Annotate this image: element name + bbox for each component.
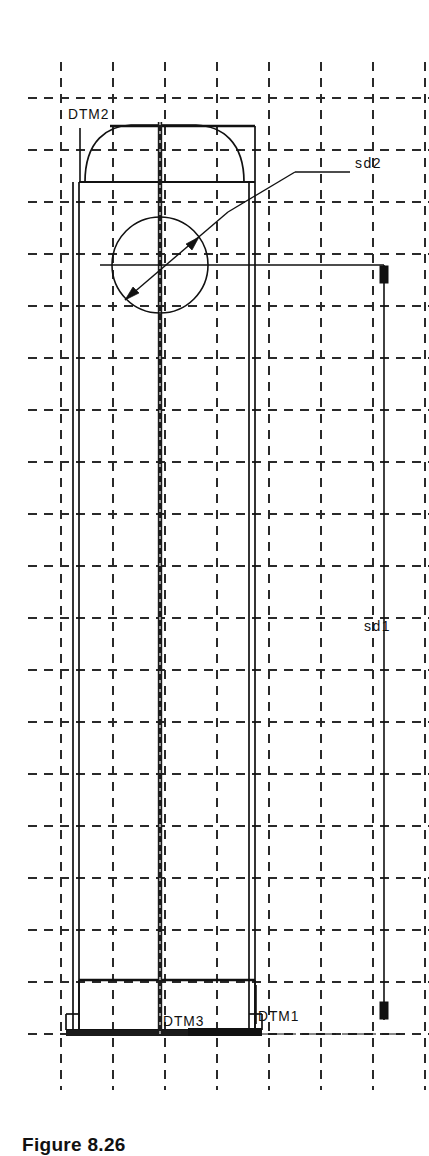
figure-caption: Figure 8.26 [22,1134,126,1156]
sd1-arrowhead-bottom [380,1002,388,1019]
datum-label-dtm3: DTM3 [163,1012,204,1029]
dimension-label-sd1: sd1 [364,618,391,634]
sd2-leader-line [228,172,295,212]
sd2-arrowhead-end [186,237,199,250]
linear-dimension-sd1 [262,265,400,1034]
construction-grid [28,62,429,1090]
sd2-diameter-line [125,212,228,300]
dimension-label-sd2: sd2 [355,155,382,171]
datum-label-dtm1: DTM1 [258,1007,299,1024]
datum-label-dtm2: DTM2 [68,105,109,122]
sd1-arrowhead-top [380,266,388,283]
technical-drawing-canvas [0,0,429,1156]
part-outline [66,125,262,1030]
